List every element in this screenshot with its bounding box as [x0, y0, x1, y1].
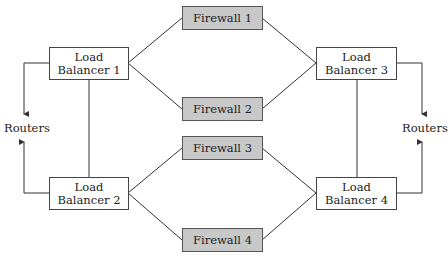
load-balancer-1: Load Balancer 1 — [49, 47, 129, 80]
routers-left-label: Routers — [4, 121, 50, 135]
load-balancer-3-line1: Load — [342, 51, 371, 64]
load-balancer-4-line2: Balancer 4 — [325, 194, 388, 207]
load-balancer-2: Load Balancer 2 — [49, 177, 129, 210]
load-balancer-3-line2: Balancer 3 — [325, 64, 388, 77]
firewall-1-label: Firewall 1 — [193, 12, 252, 25]
firewall-3-label: Firewall 3 — [193, 142, 252, 155]
firewall-4-label: Firewall 4 — [193, 234, 252, 247]
load-balancer-4-line1: Load — [342, 181, 371, 194]
firewall-3: Firewall 3 — [182, 136, 263, 160]
load-balancer-1-line1: Load — [75, 51, 104, 64]
firewall-2: Firewall 2 — [182, 97, 263, 121]
load-balancer-2-line1: Load — [75, 181, 104, 194]
firewall-4: Firewall 4 — [182, 228, 263, 252]
load-balancer-3: Load Balancer 3 — [316, 47, 397, 80]
firewall-2-label: Firewall 2 — [193, 103, 252, 116]
firewall-1: Firewall 1 — [182, 6, 263, 30]
routers-right-label: Routers — [402, 121, 448, 135]
load-balancer-1-line2: Balancer 1 — [58, 64, 121, 77]
load-balancer-4: Load Balancer 4 — [316, 177, 397, 210]
load-balancer-2-line2: Balancer 2 — [58, 194, 121, 207]
